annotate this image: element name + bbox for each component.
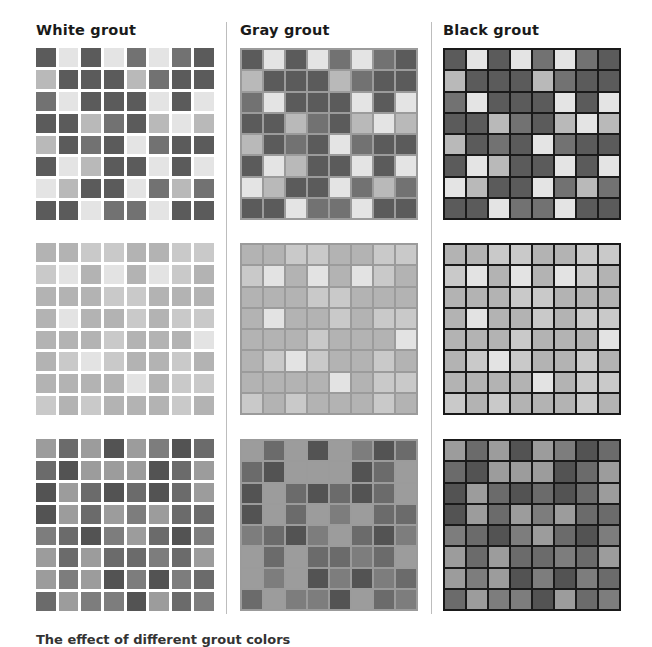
- tile: [577, 199, 597, 218]
- tile: [374, 245, 394, 264]
- tile: [36, 505, 56, 524]
- tile: [36, 396, 56, 415]
- tile: [396, 93, 416, 112]
- tile: [445, 484, 465, 503]
- tile: [59, 570, 79, 589]
- tile: [149, 352, 169, 371]
- tile: [308, 547, 328, 566]
- tile: [599, 590, 619, 609]
- tile: [533, 156, 553, 175]
- tile: [242, 394, 262, 413]
- tile: [149, 548, 169, 567]
- tile: [330, 394, 350, 413]
- tile: [59, 179, 79, 198]
- tile: [127, 114, 147, 133]
- tile: [489, 547, 509, 566]
- tile: [396, 71, 416, 90]
- tile: [286, 245, 306, 264]
- tile: [36, 201, 56, 220]
- tile: [330, 71, 350, 90]
- tile: [59, 439, 79, 458]
- tile: [59, 48, 79, 67]
- tile: [467, 178, 487, 197]
- tile: [533, 266, 553, 285]
- tile: [489, 330, 509, 349]
- tile: [467, 266, 487, 285]
- tile: [127, 374, 147, 393]
- tile: [352, 547, 372, 566]
- tile-grid-black-grout-dark-mix: [443, 48, 621, 220]
- tile: [264, 266, 284, 285]
- tile: [172, 461, 192, 480]
- tile: [599, 526, 619, 545]
- tile: [489, 71, 509, 90]
- tile: [599, 441, 619, 460]
- tile: [36, 527, 56, 546]
- tile: [104, 265, 124, 284]
- figure-caption: The effect of different grout colors: [36, 632, 290, 647]
- tile: [396, 526, 416, 545]
- tile: [286, 505, 306, 524]
- tile: [286, 373, 306, 392]
- tile: [172, 201, 192, 220]
- tile: [104, 396, 124, 415]
- tile: [577, 526, 597, 545]
- tile: [81, 70, 101, 89]
- tile: [467, 462, 487, 481]
- tile: [127, 352, 147, 371]
- tile: [127, 331, 147, 350]
- tile: [172, 309, 192, 328]
- tile: [264, 93, 284, 112]
- tile-grid-white-grout-mid-mix: [36, 439, 214, 611]
- tile: [194, 157, 214, 176]
- tile: [352, 484, 372, 503]
- tile: [330, 373, 350, 392]
- tile: [533, 288, 553, 307]
- tile: [467, 135, 487, 154]
- tile: [172, 548, 192, 567]
- tile: [330, 351, 350, 370]
- tile: [396, 50, 416, 69]
- tile: [511, 569, 531, 588]
- tile: [330, 93, 350, 112]
- tile: [374, 50, 394, 69]
- tile: [59, 136, 79, 155]
- tile: [308, 590, 328, 609]
- tile: [59, 352, 79, 371]
- tile: [533, 351, 553, 370]
- tile: [81, 331, 101, 350]
- tile: [511, 547, 531, 566]
- tile: [242, 569, 262, 588]
- tile: [286, 309, 306, 328]
- tile: [194, 331, 214, 350]
- tile: [104, 48, 124, 67]
- tile: [308, 156, 328, 175]
- tile: [352, 505, 372, 524]
- tile: [172, 114, 192, 133]
- tile: [172, 70, 192, 89]
- tile: [396, 135, 416, 154]
- tile: [489, 114, 509, 133]
- tile: [599, 373, 619, 392]
- tile: [445, 135, 465, 154]
- tile: [149, 92, 169, 111]
- tile: [104, 527, 124, 546]
- tile: [352, 178, 372, 197]
- tile: [264, 462, 284, 481]
- tile: [467, 288, 487, 307]
- tile: [374, 199, 394, 218]
- tile: [396, 505, 416, 524]
- tile: [36, 548, 56, 567]
- tile: [264, 245, 284, 264]
- tile: [445, 156, 465, 175]
- tile: [330, 330, 350, 349]
- tile: [172, 243, 192, 262]
- tile: [555, 309, 575, 328]
- tile: [81, 527, 101, 546]
- tile: [489, 288, 509, 307]
- tile: [352, 266, 372, 285]
- tile: [59, 592, 79, 611]
- tile: [264, 50, 284, 69]
- tile: [127, 70, 147, 89]
- tile: [489, 266, 509, 285]
